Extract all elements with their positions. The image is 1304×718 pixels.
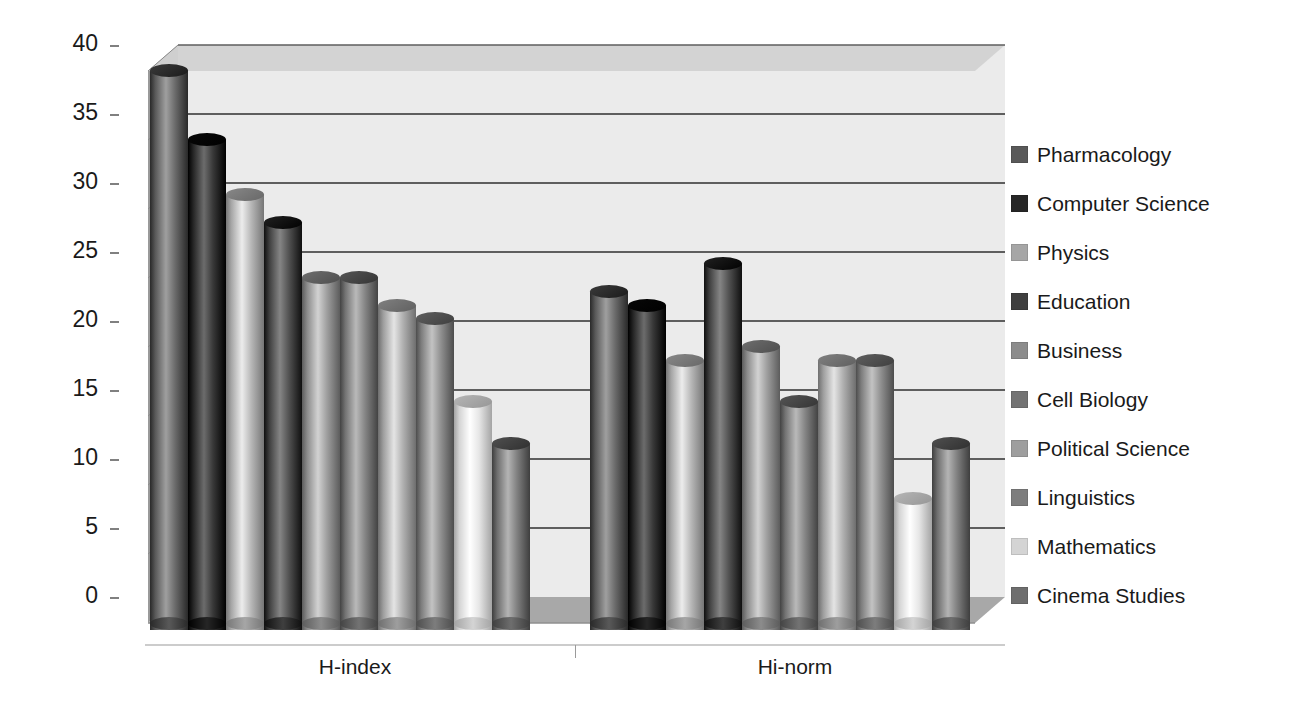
- legend-item-label: Mathematics: [1037, 536, 1156, 557]
- bar-bottom-cap: [856, 617, 894, 630]
- bar: [590, 285, 628, 630]
- bar-bottom-cap: [590, 617, 628, 630]
- bar-top-cap: [742, 340, 780, 353]
- legend-item-label: Computer Science: [1037, 193, 1210, 214]
- bar-bottom-cap: [150, 617, 188, 630]
- bar-bottom-cap: [340, 617, 378, 630]
- x-axis-separator-tick: [575, 645, 576, 658]
- chart-legend: PharmacologyComputer SciencePhysicsEduca…: [1011, 130, 1301, 620]
- bar-body: [856, 361, 894, 630]
- bar-body: [780, 402, 818, 630]
- bar-body: [188, 140, 226, 630]
- bar-body: [704, 264, 742, 630]
- bar: [492, 437, 530, 630]
- bar: [416, 312, 454, 630]
- bar: [704, 257, 742, 630]
- legend-swatch-icon: [1011, 146, 1028, 163]
- bar-bottom-cap: [188, 617, 226, 630]
- bar-body: [378, 306, 416, 630]
- bar-body: [454, 402, 492, 630]
- bar-bottom-cap: [492, 617, 530, 630]
- bar-top-cap: [264, 216, 302, 229]
- bar-bottom-cap: [378, 617, 416, 630]
- bar-body: [932, 444, 970, 630]
- legend-swatch-icon: [1011, 489, 1028, 506]
- bar-top-cap: [628, 299, 666, 312]
- bar-top-cap: [666, 354, 704, 367]
- bar-bottom-cap: [742, 617, 780, 630]
- bar-body: [416, 319, 454, 630]
- bar-body: [340, 278, 378, 630]
- bar: [628, 299, 666, 630]
- bar-top-cap: [378, 299, 416, 312]
- bar: [378, 299, 416, 630]
- bar-bottom-cap: [264, 617, 302, 630]
- bar-body: [742, 347, 780, 630]
- bar-top-cap: [818, 354, 856, 367]
- bar: [188, 133, 226, 630]
- bar: [454, 395, 492, 630]
- legend-swatch-icon: [1011, 391, 1028, 408]
- legend-item[interactable]: Education: [1011, 277, 1301, 326]
- legend-item[interactable]: Physics: [1011, 228, 1301, 277]
- legend-item-label: Cell Biology: [1037, 389, 1148, 410]
- bar-bottom-cap: [226, 617, 264, 630]
- bar-bottom-cap: [666, 617, 704, 630]
- bar: [150, 64, 188, 630]
- bar: [856, 354, 894, 630]
- bar-top-cap: [894, 492, 932, 505]
- bar-bottom-cap: [704, 617, 742, 630]
- bar-body: [226, 195, 264, 630]
- legend-item-label: Political Science: [1037, 438, 1190, 459]
- bar: [264, 216, 302, 630]
- bar: [666, 354, 704, 630]
- legend-swatch-icon: [1011, 195, 1028, 212]
- bar-top-cap: [932, 437, 970, 450]
- bar-body: [264, 223, 302, 630]
- legend-item-label: Pharmacology: [1037, 144, 1171, 165]
- bar-body: [628, 306, 666, 630]
- bar-body: [590, 292, 628, 630]
- bar-bottom-cap: [894, 617, 932, 630]
- legend-item-label: Cinema Studies: [1037, 585, 1185, 606]
- legend-item[interactable]: Cinema Studies: [1011, 571, 1301, 620]
- bar-bottom-cap: [454, 617, 492, 630]
- legend-item[interactable]: Mathematics: [1011, 522, 1301, 571]
- bar-top-cap: [302, 271, 340, 284]
- bar-bottom-cap: [302, 617, 340, 630]
- x-axis-group-label: Hi-norm: [685, 655, 905, 679]
- legend-swatch-icon: [1011, 293, 1028, 310]
- bar-bottom-cap: [818, 617, 856, 630]
- x-axis-group-label: H-index: [245, 655, 465, 679]
- bar-top-cap: [150, 64, 188, 77]
- bar: [894, 492, 932, 630]
- legend-swatch-icon: [1011, 440, 1028, 457]
- legend-swatch-icon: [1011, 342, 1028, 359]
- bar-top-cap: [340, 271, 378, 284]
- legend-item[interactable]: Computer Science: [1011, 179, 1301, 228]
- bar: [932, 437, 970, 630]
- legend-item[interactable]: Political Science: [1011, 424, 1301, 473]
- legend-item[interactable]: Pharmacology: [1011, 130, 1301, 179]
- bar-bottom-cap: [932, 617, 970, 630]
- bar-bottom-cap: [780, 617, 818, 630]
- legend-item-label: Education: [1037, 291, 1130, 312]
- bar: [818, 354, 856, 630]
- legend-swatch-icon: [1011, 538, 1028, 555]
- bar-body: [818, 361, 856, 630]
- legend-item[interactable]: Linguistics: [1011, 473, 1301, 522]
- legend-item[interactable]: Business: [1011, 326, 1301, 375]
- bar: [302, 271, 340, 630]
- bar: [780, 395, 818, 630]
- bar-chart: 4035302520151050 H-indexHi-norm Pharmaco…: [0, 0, 1304, 718]
- bar-top-cap: [188, 133, 226, 146]
- bar: [340, 271, 378, 630]
- bar-body: [302, 278, 340, 630]
- legend-item[interactable]: Cell Biology: [1011, 375, 1301, 424]
- legend-item-label: Business: [1037, 340, 1122, 361]
- bar-top-cap: [492, 437, 530, 450]
- bar-top-cap: [590, 285, 628, 298]
- legend-swatch-icon: [1011, 587, 1028, 604]
- bar-body: [150, 71, 188, 630]
- bar: [742, 340, 780, 630]
